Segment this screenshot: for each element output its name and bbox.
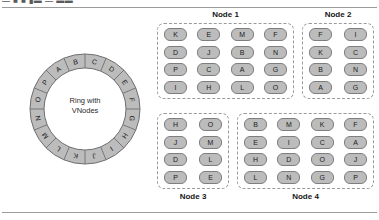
vnode-j[interactable]: J	[197, 46, 220, 59]
vnode-row: DL	[162, 153, 224, 166]
vnode-row: FI	[307, 28, 369, 41]
vnode-o[interactable]: O	[199, 118, 222, 131]
vnode-row: BMKF	[242, 118, 369, 131]
vnode-row: EICA	[242, 136, 369, 149]
vnode-o[interactable]: O	[264, 81, 287, 94]
vnode-g[interactable]: G	[264, 63, 287, 76]
vnode-h[interactable]: H	[164, 118, 187, 131]
ring-caption-line-2: VNodes	[26, 106, 144, 116]
consistent-hash-ring: ABCDEFGHIJKLMNOP Ring with VNodes	[26, 38, 144, 180]
vnode-m[interactable]: M	[199, 136, 222, 149]
vnode-f[interactable]: F	[264, 28, 287, 41]
vnode-c[interactable]: C	[344, 46, 367, 59]
vnode-row: PE	[162, 171, 224, 184]
vnode-b[interactable]: B	[231, 46, 254, 59]
bottom-divider-rule	[2, 212, 377, 213]
vnode-e[interactable]: E	[199, 171, 222, 184]
vnode-p[interactable]: P	[164, 171, 187, 184]
vnode-o[interactable]: O	[311, 153, 334, 166]
vnode-a[interactable]: A	[231, 63, 254, 76]
vnode-row: DJBN	[162, 46, 289, 59]
vnode-row: HDOJ	[242, 153, 369, 166]
vnode-n[interactable]: N	[264, 46, 287, 59]
vnode-n[interactable]: N	[277, 171, 300, 184]
vnode-j[interactable]: J	[164, 136, 187, 149]
vnode-row: KC	[307, 46, 369, 59]
vnode-g[interactable]: G	[344, 81, 367, 94]
top-divider-rule	[2, 7, 377, 8]
vnode-i[interactable]: I	[277, 136, 300, 149]
node-panel-node4: BMKFEICAHDOJLNGP	[237, 113, 374, 189]
node-title-node4: Node 4	[237, 192, 374, 201]
vnode-c[interactable]: C	[197, 63, 220, 76]
vnode-a[interactable]: A	[309, 81, 332, 94]
vnode-row: LNGP	[242, 171, 369, 184]
ring-center-caption: Ring with VNodes	[26, 96, 144, 116]
vnode-m[interactable]: M	[277, 118, 300, 131]
node-panel-node3: HOJMDLPE	[157, 113, 229, 189]
vnode-row: BN	[307, 63, 369, 76]
vnode-l[interactable]: L	[244, 171, 267, 184]
node-title-node1: Node 1	[157, 10, 294, 19]
vnode-m[interactable]: M	[231, 28, 254, 41]
vnode-i[interactable]: I	[164, 81, 187, 94]
vnode-p[interactable]: P	[344, 171, 367, 184]
vnode-l[interactable]: L	[199, 153, 222, 166]
vnode-k[interactable]: K	[164, 28, 187, 41]
cropped-header-fragment: — ■ ■ ▮▬ — ▬▬	[2, 0, 82, 4]
vnode-a[interactable]: A	[344, 136, 367, 149]
vnode-row: PCAG	[162, 63, 289, 76]
vnode-row: IHLO	[162, 81, 289, 94]
vnode-h[interactable]: H	[244, 153, 267, 166]
node-panel-node2: FIKCBNAG	[302, 23, 374, 99]
vnode-row: KEMF	[162, 28, 289, 41]
vnode-n[interactable]: N	[344, 63, 367, 76]
vnode-b[interactable]: B	[244, 118, 267, 131]
vnode-g[interactable]: G	[311, 171, 334, 184]
vnode-i[interactable]: I	[344, 28, 367, 41]
vnode-e[interactable]: E	[197, 28, 220, 41]
vnode-f[interactable]: F	[309, 28, 332, 41]
vnode-l[interactable]: L	[231, 81, 254, 94]
ring-caption-line-1: Ring with	[26, 96, 144, 106]
vnode-b[interactable]: B	[309, 63, 332, 76]
vnode-j[interactable]: J	[344, 153, 367, 166]
vnode-p[interactable]: P	[164, 63, 187, 76]
vnode-h[interactable]: H	[197, 81, 220, 94]
figure-canvas: — ■ ■ ▮▬ — ▬▬ ABCDEFGHIJKLMNOP Ring with…	[0, 0, 379, 220]
vnode-f[interactable]: F	[344, 118, 367, 131]
vnode-k[interactable]: K	[311, 118, 334, 131]
vnode-row: AG	[307, 81, 369, 94]
vnode-c[interactable]: C	[311, 136, 334, 149]
vnode-row: JM	[162, 136, 224, 149]
vnode-d[interactable]: D	[164, 153, 187, 166]
vnode-d[interactable]: D	[277, 153, 300, 166]
vnode-e[interactable]: E	[244, 136, 267, 149]
vnode-row: HO	[162, 118, 224, 131]
vnode-k[interactable]: K	[309, 46, 332, 59]
vnode-d[interactable]: D	[164, 46, 187, 59]
node-title-node2: Node 2	[302, 10, 374, 19]
node-title-node3: Node 3	[157, 192, 229, 201]
node-panel-node1: KEMFDJBNPCAGIHLO	[157, 23, 294, 99]
